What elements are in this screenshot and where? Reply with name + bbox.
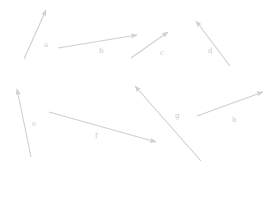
vector-label-h: h [232,117,237,124]
vector-label-f: f [95,133,98,140]
vector-arrow-h [197,92,263,116]
vector-lines-group [17,10,263,161]
vector-label-c: c [160,50,164,57]
vector-arrow-a [24,10,46,59]
vector-arrow-f [49,112,156,142]
vector-label-e: e [32,121,36,128]
vector-label-g: g [175,113,179,120]
vector-arrow-g [135,86,201,161]
vector-canvas [0,0,276,200]
vector-diagram: abcdefgh [0,0,276,200]
vector-label-b: b [99,48,103,55]
vector-label-a: a [44,42,48,49]
vector-arrow-d [196,21,230,66]
vector-arrow-e [17,89,31,157]
vector-arrow-b [58,35,137,48]
vector-label-d: d [208,48,212,55]
